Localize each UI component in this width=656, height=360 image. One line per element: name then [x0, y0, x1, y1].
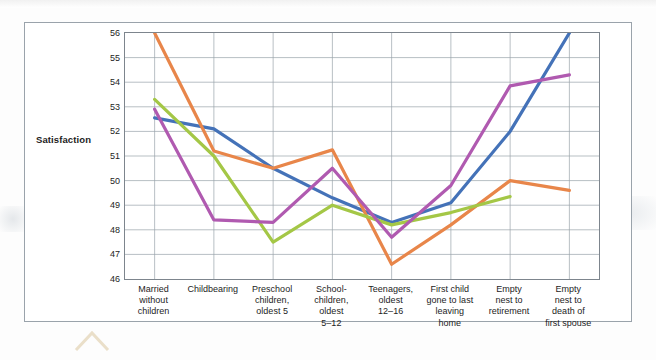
- scan-artifact-left-smudge: [0, 206, 26, 232]
- series-orange: [155, 33, 570, 264]
- page-background: Satisfaction 5655545352515049484746 Marr…: [0, 0, 656, 360]
- y-tick-label: 54: [98, 77, 120, 87]
- x-axis-category-labels: Married without childrenChildbearingPres…: [124, 284, 600, 354]
- y-tick-label: 53: [98, 102, 120, 112]
- scan-artifact-top-band: [0, 0, 656, 8]
- series-purple: [155, 75, 570, 237]
- y-tick-label: 46: [98, 274, 120, 284]
- plot-series-lines: [125, 33, 599, 279]
- y-axis-tick-labels: 5655545352515049484746: [94, 32, 120, 280]
- y-tick-label: 55: [98, 53, 120, 63]
- x-category-label: Empty nest to death of first spouse: [533, 284, 604, 329]
- y-tick-label: 50: [98, 176, 120, 186]
- scan-artifact-chevron: [74, 330, 110, 352]
- y-tick-label: 48: [98, 225, 120, 235]
- y-axis-title: Satisfaction: [36, 134, 91, 145]
- series-blue: [155, 33, 570, 222]
- y-tick-label: 52: [98, 126, 120, 136]
- y-tick-label: 56: [98, 28, 120, 38]
- y-tick-label: 49: [98, 200, 120, 210]
- plot-area: [124, 32, 600, 280]
- y-tick-label: 47: [98, 249, 120, 259]
- y-tick-label: 51: [98, 151, 120, 161]
